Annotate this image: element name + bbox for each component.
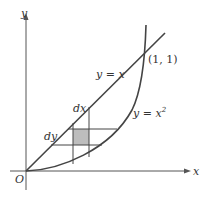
- x-axis-label: x: [193, 165, 200, 178]
- parabola-y-equals-x-squared: [26, 25, 146, 171]
- line-label: y = x: [95, 68, 125, 81]
- double-integral-region-diagram: y x O (1, 1) y = x y = x2 dx dy: [0, 0, 204, 198]
- intersection-label: (1, 1): [148, 53, 178, 66]
- dy-label: dy: [44, 130, 58, 143]
- origin-label: O: [15, 173, 24, 186]
- parabola-label: y = x2: [132, 106, 167, 120]
- dx-label: dx: [73, 102, 87, 115]
- x-axis-arrow-icon: [184, 169, 191, 174]
- y-axis-label: y: [20, 7, 28, 20]
- area-element: [73, 129, 89, 145]
